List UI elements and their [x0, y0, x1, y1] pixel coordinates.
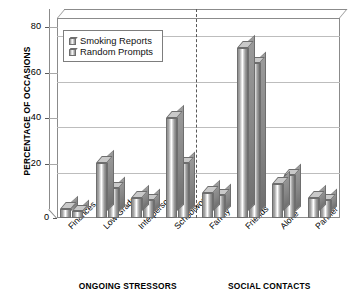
gridline-back	[49, 73, 58, 74]
gridline-back	[49, 164, 58, 165]
legend: Smoking Reports Random Prompts	[63, 30, 163, 62]
bar-front-face	[96, 163, 107, 218]
bar-swatch-icon	[69, 37, 76, 45]
bar	[96, 163, 107, 218]
y-tick	[45, 73, 49, 74]
group-divider	[196, 9, 197, 218]
bar-side-face	[248, 34, 255, 211]
plot-wall-top	[57, 9, 348, 18]
bar-front-face	[131, 198, 142, 218]
plot-wall-top-edge	[64, 9, 347, 10]
y-tick-label: 40	[15, 112, 41, 122]
bar-chart: PERCENTAGE OF OCCASIONS 020406080 Financ…	[0, 0, 350, 304]
legend-item: Random Prompts	[69, 46, 153, 57]
bar-front-face	[202, 193, 213, 218]
gridline-back	[49, 118, 58, 119]
bar-front-face	[166, 118, 177, 218]
bar-front-face	[237, 48, 248, 218]
y-axis-title: PERCENTAGE OF OCCASIONS	[22, 18, 32, 204]
bar	[60, 209, 71, 218]
bar-front-face	[60, 209, 71, 218]
bar	[131, 198, 142, 218]
y-tick	[53, 218, 57, 219]
bar	[72, 211, 83, 218]
gridline-back	[49, 27, 58, 28]
gridline	[57, 127, 340, 128]
bar	[166, 118, 177, 218]
y-tick-label: 80	[15, 21, 41, 31]
plot-wall-left	[49, 18, 57, 227]
gridline	[57, 82, 340, 83]
group-title: ONGOING STRESSORS	[68, 281, 188, 291]
legend-item-label: Random Prompts	[80, 46, 153, 57]
bar	[272, 184, 283, 218]
plot-floor-corner	[49, 209, 58, 218]
bar-front-face	[272, 184, 283, 218]
bar	[308, 198, 319, 218]
legend-item-label: Smoking Reports	[80, 35, 152, 46]
y-tick-label: 60	[15, 67, 41, 77]
y-tick	[45, 27, 49, 28]
legend-item: Smoking Reports	[69, 35, 153, 46]
plot-wall-left-edge	[49, 9, 50, 209]
group-title: SOCIAL CONTACTS	[209, 281, 329, 291]
y-tick	[45, 118, 49, 119]
bar-swatch-icon	[69, 48, 76, 56]
bar-side-face	[177, 105, 184, 211]
bar-front-face	[308, 198, 319, 218]
bar	[202, 193, 213, 218]
bar-front-face	[72, 211, 83, 218]
y-tick	[45, 164, 49, 165]
y-tick-label: 20	[15, 158, 41, 168]
bar	[237, 48, 248, 218]
bar-side-face	[260, 52, 266, 212]
y-tick-label: 0	[23, 212, 49, 222]
